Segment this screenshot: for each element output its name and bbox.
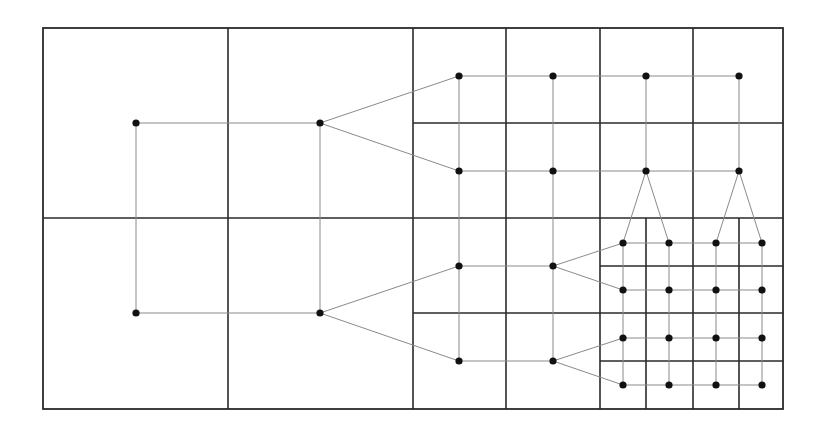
node-b1: [316, 119, 323, 126]
node-i2: [665, 334, 672, 341]
node-h2: [665, 286, 672, 293]
diagram-canvas: [0, 0, 823, 432]
node-d3: [642, 167, 649, 174]
grid-refinement-diagram: [0, 0, 823, 432]
node-a1: [132, 119, 139, 126]
node-j2: [665, 381, 672, 388]
node-g1: [619, 239, 626, 246]
node-h3: [712, 286, 719, 293]
node-f1: [455, 357, 462, 364]
grid-cells: [43, 28, 783, 409]
node-c2: [549, 72, 556, 79]
node-j4: [758, 381, 765, 388]
node-j3: [712, 381, 719, 388]
node-i4: [758, 334, 765, 341]
node-c1: [455, 72, 462, 79]
node-d2: [549, 167, 556, 174]
node-g3: [712, 239, 719, 246]
node-h4: [758, 286, 765, 293]
node-c3: [642, 72, 649, 79]
node-j1: [619, 381, 626, 388]
node-d1: [455, 167, 462, 174]
node-b2: [316, 309, 323, 316]
node-f2: [549, 357, 556, 364]
node-e1: [455, 262, 462, 269]
node-i3: [712, 334, 719, 341]
node-h1: [619, 286, 626, 293]
node-i1: [619, 334, 626, 341]
node-g2: [665, 239, 672, 246]
node-g4: [758, 239, 765, 246]
node-a2: [132, 309, 139, 316]
node-d4: [735, 167, 742, 174]
node-e2: [549, 262, 556, 269]
node-c4: [735, 72, 742, 79]
